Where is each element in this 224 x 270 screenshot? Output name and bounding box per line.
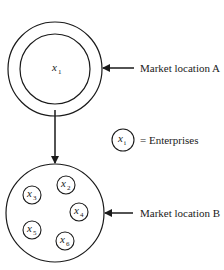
svg-text:x6: x6 [59, 233, 70, 248]
market-a-label: Market location A [140, 62, 220, 74]
enterprise-x3: x3 [23, 186, 41, 204]
svg-text:x3: x3 [26, 187, 37, 202]
legend: xi = Enterprises [112, 129, 198, 151]
market-b-label: Market location B [140, 207, 220, 219]
enterprise-x5: x5 [23, 221, 41, 239]
legend-symbol: xi [117, 132, 126, 147]
svg-text:x5: x5 [26, 222, 37, 237]
enterprise-x4: x4 [70, 203, 88, 221]
enterprise-x2: x2 [57, 176, 75, 194]
market-b-ring [6, 164, 104, 262]
svg-text:x2: x2 [60, 177, 71, 192]
market-location-b: x2 x3 x4 x5 x6 [6, 164, 104, 262]
enterprise-x1: x1 [51, 61, 62, 76]
svg-text:x4: x4 [73, 204, 84, 219]
enterprise-x6: x6 [56, 232, 74, 250]
market-location-a: x1 [8, 22, 102, 116]
market-relocation-diagram: x1 Market location A xi = Enterprises x2… [0, 0, 224, 270]
legend-text: = Enterprises [140, 134, 198, 146]
